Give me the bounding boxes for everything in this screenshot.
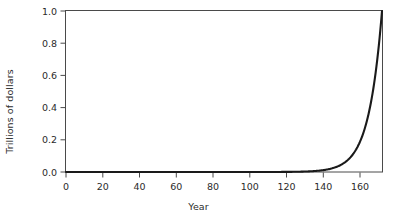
chart-figure: 1.0 0.8 0.6 0.4 0.2 0.0 0 20 40 60 80 1 — [0, 0, 397, 223]
exponential-growth-chart: 1.0 0.8 0.6 0.4 0.2 0.0 0 20 40 60 80 1 — [0, 0, 397, 223]
x-tick-label: 60 — [170, 181, 182, 192]
x-tick-label: 0 — [63, 181, 69, 192]
x-axis-title: Year — [0, 201, 397, 212]
y-tick-label: 0.2 — [42, 134, 57, 145]
y-axis-title: Trillions of dollars — [3, 0, 17, 223]
x-tick-label: 100 — [241, 181, 259, 192]
y-tick-label: 1.0 — [42, 6, 57, 17]
y-tick-label: 0.0 — [42, 167, 57, 178]
x-tick-label: 40 — [133, 181, 145, 192]
y-tick-label: 0.4 — [42, 102, 57, 113]
x-tick-label: 20 — [97, 181, 109, 192]
x-tick-label: 160 — [351, 181, 369, 192]
x-tick-label: 140 — [314, 181, 332, 192]
chart-background — [0, 0, 397, 223]
x-tick-label: 120 — [277, 181, 295, 192]
y-tick-label: 0.6 — [42, 70, 57, 81]
x-tick-label: 80 — [207, 181, 219, 192]
y-tick-label: 0.8 — [42, 38, 57, 49]
